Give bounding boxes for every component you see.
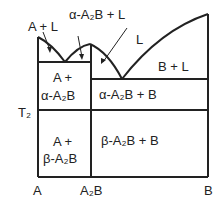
label-beta-b: β-A₂B + B <box>101 133 159 148</box>
phase-diagram: A + L α-A₂B + L L B + L A + α-A₂B α-A₂B … <box>0 0 219 210</box>
liquidus-a <box>38 37 65 62</box>
label-axis-a2b: A₂B <box>80 183 102 198</box>
label-b-plus-l: B + L <box>158 59 189 74</box>
label-a-beta-2: β-A₂B <box>43 151 77 166</box>
label-a-alpha-2: α-A₂B <box>41 88 75 103</box>
label-alpha-b: α-A₂B + B <box>99 87 157 102</box>
label-alpha-plus-l: α-A₂B + L <box>69 7 125 22</box>
arrow-l <box>103 28 127 62</box>
label-t2: T₂ <box>18 105 31 120</box>
label-a-beta-1: A + <box>53 134 72 149</box>
liquidus-a2b-right <box>90 44 122 79</box>
label-a-plus-l: A + L <box>28 19 58 34</box>
label-axis-b: B <box>204 183 213 198</box>
liquidus-a2b-left <box>65 44 90 62</box>
label-axis-a: A <box>33 183 42 198</box>
label-a-alpha-1: A + <box>53 70 72 85</box>
label-liquid: L <box>136 32 143 47</box>
